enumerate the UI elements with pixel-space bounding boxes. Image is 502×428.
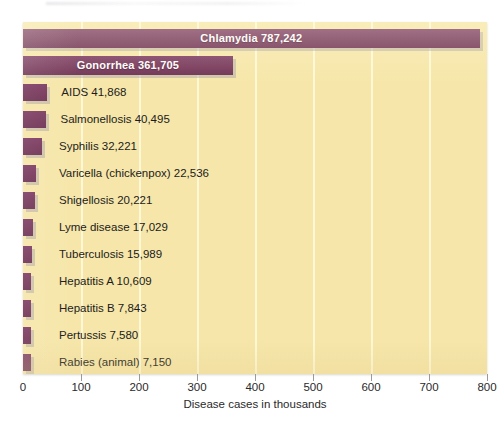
bar-row: Rabies (animal) 7,150 [23,350,487,374]
bar-row: Shigellosis 20,221 [23,188,487,215]
bar [23,84,47,101]
bar [23,111,46,128]
x-axis-title: Disease cases in thousands [23,398,487,410]
bar-row: AIDS 41,868 [23,80,487,107]
bar-value-label: Hepatitis A 10,609 [59,272,152,291]
x-tick [429,374,430,381]
bar-value-label: Pertussis 7,580 [59,326,138,345]
x-tick-label: 0 [20,381,26,393]
bar-row: Chlamydia 787,242 [23,26,487,53]
bar-row: Gonorrhea 361,705 [23,53,487,80]
x-tick-label: 500 [303,381,322,393]
x-tick [313,374,314,381]
bar-value-label: Lyme disease 17,029 [59,218,168,237]
x-tick-label: 800 [477,381,496,393]
bar-row: Hepatitis A 10,609 [23,269,487,296]
bar-value-label: Varicella (chickenpox) 22,536 [59,164,209,183]
bar [23,327,31,344]
x-tick-label: 100 [71,381,90,393]
bar-chart-figure: Chlamydia 787,242Gonorrhea 361,705AIDS 4… [0,0,502,428]
x-tick [371,374,372,381]
bar-row: Lyme disease 17,029 [23,215,487,242]
x-tick-label: 700 [419,381,438,393]
x-tick-label: 300 [187,381,206,393]
x-tick-label: 600 [361,381,380,393]
bar [23,246,32,263]
bar [23,138,42,155]
bar-value-label: Syphilis 32,221 [59,137,137,156]
bar-row: Salmonellosis 40,495 [23,107,487,134]
x-tick [139,374,140,381]
bar-value-label: Tuberculosis 15,989 [59,245,162,264]
bar-value-label: Chlamydia 787,242 [23,29,480,48]
bar-value-label: Gonorrhea 361,705 [23,56,233,75]
bar [23,300,31,317]
x-tick-label: 200 [129,381,148,393]
bar-value-label: Rabies (animal) 7,150 [59,353,172,372]
x-tick [487,374,488,381]
bar-row: Hepatitis B 7,843 [23,296,487,323]
bar-row: Varicella (chickenpox) 22,536 [23,161,487,188]
bar [23,192,35,209]
x-tick [81,374,82,381]
bar [23,354,31,371]
plot-area: Chlamydia 787,242Gonorrhea 361,705AIDS 4… [23,22,487,374]
bar-row: Pertussis 7,580 [23,323,487,350]
bar-row: Syphilis 32,221 [23,134,487,161]
bar-value-label: Hepatitis B 7,843 [59,299,147,318]
x-axis: 0100200300400500600700800 [23,374,487,386]
x-tick [255,374,256,381]
bar-value-label: AIDS 41,868 [61,83,126,102]
bar-row: Tuberculosis 15,989 [23,242,487,269]
bar-value-label: Salmonellosis 40,495 [60,110,169,129]
bar [23,165,36,182]
bar [23,273,31,290]
x-tick [197,374,198,381]
bar-value-label: Shigellosis 20,221 [59,191,152,210]
bar [23,219,33,236]
x-tick-label: 400 [245,381,264,393]
